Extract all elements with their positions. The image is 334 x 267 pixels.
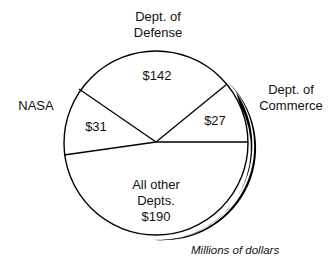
commerce-label-line1: Dept. of [246,82,334,98]
other-label: All other Depts. $190 [116,177,196,225]
other-value: $190 [116,209,196,225]
commerce-label-line2: Commerce [246,98,334,114]
other-label-line1: All other [116,177,196,193]
commerce-label: Dept. of Commerce [246,82,334,114]
defense-label-line1: Dept. of [118,9,198,25]
commerce-value: $27 [197,113,233,129]
nasa-value: $31 [78,119,114,135]
nasa-label: NASA [14,98,58,114]
unit-note: Millions of dollars [191,244,279,256]
other-label-line2: Depts. [116,193,196,209]
defense-value: $142 [135,68,179,84]
defense-label-line2: Defense [118,25,198,41]
defense-label: Dept. of Defense [118,9,198,41]
